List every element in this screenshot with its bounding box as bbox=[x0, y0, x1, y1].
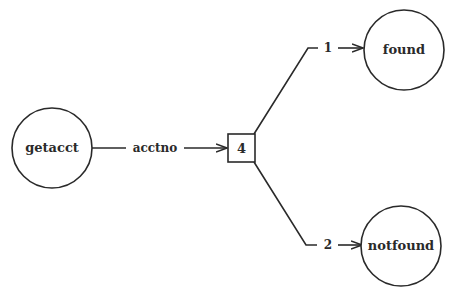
edge-label-acctno: acctno bbox=[133, 141, 178, 155]
edge-1: 1 bbox=[254, 41, 363, 134]
node-found: found bbox=[364, 10, 444, 90]
diagram-canvas: getacct acctno 4 1 found 2 bbox=[0, 0, 464, 299]
edge-line-lower bbox=[254, 162, 317, 245]
node-getacct: getacct bbox=[12, 108, 92, 188]
edge-label-2: 2 bbox=[324, 238, 332, 252]
edge-2: 2 bbox=[254, 162, 362, 252]
notfound-label: notfound bbox=[368, 238, 434, 253]
edge-label-1: 1 bbox=[324, 41, 332, 55]
edge-line-upper bbox=[254, 48, 318, 134]
found-label: found bbox=[383, 42, 425, 57]
node-notfound: notfound bbox=[361, 206, 441, 286]
node-decision-box: 4 bbox=[228, 134, 255, 162]
getacct-label: getacct bbox=[25, 140, 79, 155]
decision-label: 4 bbox=[237, 141, 246, 156]
edge-acctno: acctno bbox=[92, 141, 227, 155]
